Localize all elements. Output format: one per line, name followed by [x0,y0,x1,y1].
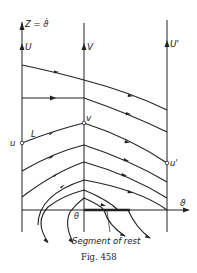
trajectories [22,65,167,244]
label-theta-point: θ [74,212,79,221]
label-v: v [86,113,92,123]
trajectory-10 [128,210,150,238]
label-u-prime: u' [170,158,178,168]
label-U: U [25,42,32,52]
z-axis-label: Z = ϑ̇ [24,18,49,29]
middle-vertical-axis [82,23,87,232]
trajectory-4 [22,145,167,182]
trajectory-1 [22,65,167,110]
trajectory-5 [22,162,167,198]
point-u-prime [165,161,169,165]
left-vertical-axis [20,22,25,232]
figure-caption: Fig. 458 [81,252,117,262]
right-vertical-axis [165,20,170,232]
label-L: L [31,129,36,139]
theta-axis-label: ϑ [180,198,186,208]
label-V: V [87,42,94,52]
label-u: u [10,138,15,148]
phase-portrait-diagram: Z = ϑ̇ U V U' u v u' L θ ϑ Segment of re… [0,0,197,273]
label-U-prime: U' [170,39,179,49]
point-u [20,141,24,145]
trajectory-uv [22,123,167,163]
segment-of-rest-label: Segment of rest [72,236,141,246]
